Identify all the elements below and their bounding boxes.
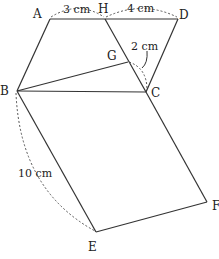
measure-HD: 4 cm bbox=[127, 2, 155, 15]
label-D: D bbox=[179, 8, 189, 22]
arc-BE bbox=[16, 93, 95, 231]
label-H: H bbox=[98, 2, 108, 16]
label-C: C bbox=[151, 86, 160, 100]
segment-AB bbox=[17, 19, 50, 91]
segment-BG bbox=[17, 62, 128, 91]
segment-EF bbox=[96, 202, 207, 232]
segment-DC bbox=[146, 19, 178, 92]
segment-BC bbox=[17, 91, 146, 92]
segment-BE bbox=[17, 91, 96, 232]
label-B: B bbox=[0, 84, 9, 98]
leader-GC bbox=[142, 51, 147, 68]
label-G: G bbox=[107, 49, 117, 63]
label-F: F bbox=[212, 199, 219, 213]
measure-GC: 2 cm bbox=[131, 40, 159, 53]
label-E: E bbox=[88, 240, 97, 254]
label-A: A bbox=[32, 7, 42, 21]
measure-AH: 3 cm bbox=[63, 3, 91, 16]
measure-BE: 10 cm bbox=[18, 167, 53, 180]
geometry-diagram: A H D G B C E F 3 cm 4 cm 2 cm 10 cm bbox=[0, 0, 219, 259]
segment-FC bbox=[146, 92, 207, 202]
